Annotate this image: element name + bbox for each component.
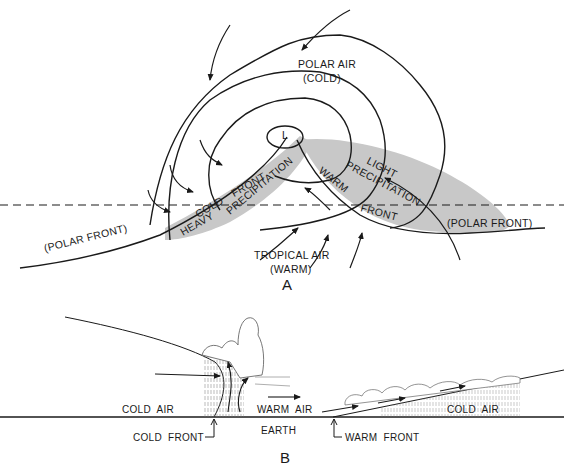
cold-front-marker <box>205 419 217 437</box>
earth-label: EARTH <box>261 425 296 436</box>
cold-air-left-label: COLD AIR <box>122 404 174 415</box>
warm-front-marker <box>331 419 342 437</box>
outflow-streaks <box>255 377 290 386</box>
panel-a-label: A <box>282 276 292 293</box>
polar-air-label: POLAR AIR <box>298 58 356 70</box>
low-pressure-symbol: L <box>282 129 288 141</box>
cold-front-boundary <box>65 317 224 417</box>
frontal-system-diagram: POLAR AIR (COLD) L COLD FRONT HEAVY PREC… <box>0 0 564 467</box>
cold-front-b-label: COLD FRONT <box>133 432 204 443</box>
panel-b-label: B <box>280 449 290 466</box>
warm-front-b-label: WARM FRONT <box>345 432 420 443</box>
polar-front-label-right: (POLAR FRONT) <box>447 217 533 229</box>
figure-a-plan-view: POLAR AIR (COLD) L COLD FRONT HEAVY PREC… <box>0 10 564 293</box>
figure-b-cross-section: COLD AIR WARM AIR COLD AIR EARTH COLD FR… <box>0 317 564 466</box>
polar-air-sublabel: (COLD) <box>303 72 341 84</box>
tropical-air-label: TROPICAL AIR <box>254 249 330 261</box>
warm-air-label: WARM AIR <box>257 404 313 415</box>
cold-air-right-label: COLD AIR <box>447 404 499 415</box>
tropical-air-sublabel: (WARM) <box>270 263 312 275</box>
